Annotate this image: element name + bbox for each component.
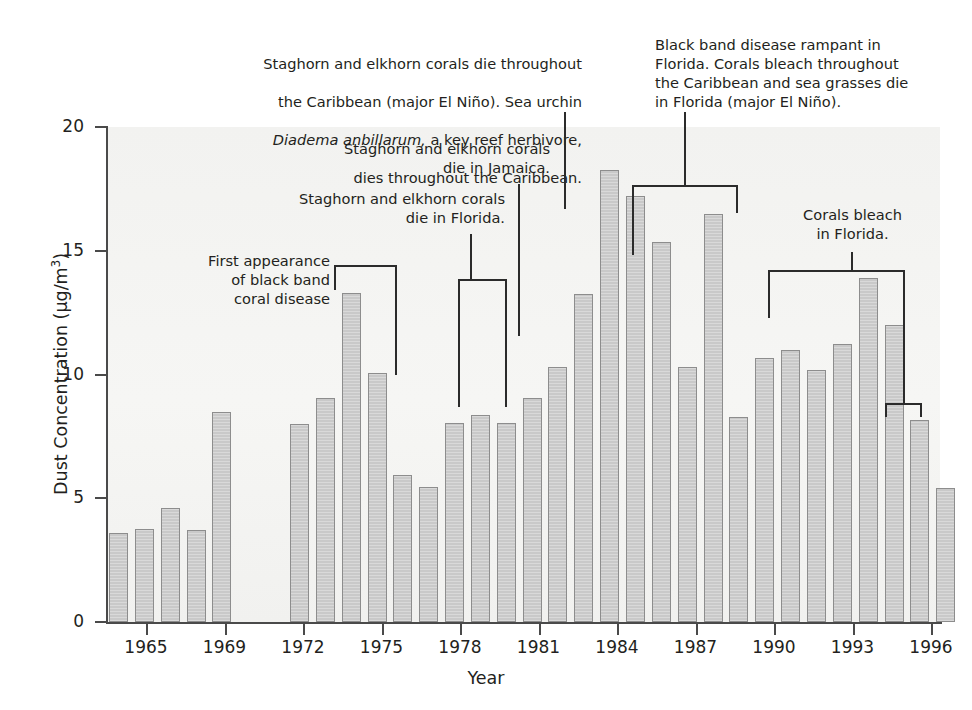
x-axis-tick — [539, 624, 541, 635]
leader-line-caribbean — [564, 112, 566, 209]
x-axis-tick-label: 1965 — [116, 638, 176, 657]
bar — [497, 423, 516, 622]
x-axis-tick-label: 1981 — [509, 638, 569, 657]
bar — [523, 398, 542, 622]
x-axis-line — [106, 622, 942, 624]
leader-line-florida-stem — [470, 234, 472, 279]
leader-line-bleach-left-drop — [768, 270, 770, 318]
annotation-corals-bleach-florida: Corals bleach in Florida. — [765, 206, 940, 244]
bar — [445, 423, 464, 622]
y-axis-tick-label: 10 — [0, 366, 84, 383]
x-axis-tick — [460, 624, 462, 635]
leader-line-bleach-bracket — [768, 270, 904, 272]
leader-line-bleach-stem — [851, 252, 853, 270]
bar — [600, 170, 619, 622]
bar — [833, 344, 852, 622]
y-axis-tick — [95, 250, 106, 252]
y-axis-tick-label: 20 — [0, 118, 84, 135]
x-axis-tick — [931, 624, 933, 635]
annotation-line: Staghorn and elkhorn corals die througho… — [232, 55, 582, 74]
y-axis-tick — [95, 126, 106, 128]
y-axis-title-text: Dust Concentration (µg/m3) — [51, 252, 71, 494]
leader-line-blackband-stem — [684, 112, 686, 185]
bar — [652, 242, 671, 622]
annotation-staghorn-elkhorn-florida: Staghorn and elkhorn corals die in Flori… — [265, 190, 505, 228]
y-axis-tick-label: 5 — [0, 489, 84, 506]
annotation-first-appearance-black-band: First appearance of black band coral dis… — [155, 252, 330, 309]
bar — [290, 424, 309, 622]
leader-line-bleach-right-cap — [885, 403, 921, 405]
x-axis-tick — [774, 624, 776, 635]
y-axis-line — [106, 126, 108, 624]
annotation-staghorn-elkhorn-jamaica: Staghorn and elkhorn corals die in Jamai… — [310, 140, 550, 178]
x-axis-tick-label: 1978 — [430, 638, 490, 657]
x-axis-tick-label: 1975 — [352, 638, 412, 657]
annotation-line: the Caribbean (major El Niño). Sea urchi… — [232, 93, 582, 112]
leader-line-florida-right-drop — [505, 279, 507, 407]
bar — [548, 367, 567, 622]
leader-line-firstapp-left-drop — [334, 265, 336, 290]
leader-line-blackband-bracket — [632, 185, 737, 187]
x-axis-tick-label: 1972 — [273, 638, 333, 657]
bar — [781, 350, 800, 622]
bar — [574, 294, 593, 622]
leader-line-blackband-right-drop — [736, 185, 738, 213]
leader-line-firstapp-right-drop — [395, 265, 397, 375]
x-axis-tick — [146, 624, 148, 635]
bar — [419, 487, 438, 622]
x-axis-title: Year — [0, 668, 972, 688]
bar — [161, 508, 180, 622]
x-axis-tick-label: 1996 — [901, 638, 961, 657]
x-axis-tick — [853, 624, 855, 635]
leader-line-bleach-right-drop — [903, 270, 905, 403]
bar — [910, 420, 929, 622]
x-axis-tick-label: 1993 — [823, 638, 883, 657]
bar — [187, 530, 206, 622]
x-axis-tick — [225, 624, 227, 635]
bar — [936, 488, 955, 622]
x-axis-tick — [617, 624, 619, 635]
x-axis-tick-label: 1984 — [587, 638, 647, 657]
bar — [755, 358, 774, 622]
x-axis-tick — [382, 624, 384, 635]
bar — [316, 398, 335, 622]
bar — [859, 278, 878, 622]
bar — [807, 370, 826, 622]
bar — [678, 367, 697, 622]
y-axis-tick — [95, 497, 106, 499]
x-axis-tick-label: 1990 — [744, 638, 804, 657]
y-axis-tick-label: 15 — [0, 242, 84, 259]
chart-figure: 05101520 Dust Concentration (µg/m3) 1965… — [0, 0, 972, 710]
leader-line-firstapp-bracket — [334, 265, 396, 267]
bar — [368, 373, 387, 622]
leader-line-bleach-cap-right — [920, 403, 922, 417]
bar — [393, 475, 412, 622]
bar — [626, 196, 645, 622]
bar — [212, 412, 231, 622]
x-axis-tick-label: 1969 — [195, 638, 255, 657]
y-axis-title: Dust Concentration (µg/m3) — [49, 223, 71, 523]
leader-line-florida-left-drop — [458, 279, 460, 407]
bar — [729, 417, 748, 622]
annotation-staghorn-elkhorn-caribbean: Staghorn and elkhorn corals die througho… — [232, 36, 582, 207]
bar — [135, 529, 154, 622]
leader-line-bleach-cap-left — [885, 403, 887, 417]
leader-line-blackband-left-drop — [632, 185, 634, 255]
bar — [704, 214, 723, 622]
bar — [342, 293, 361, 622]
y-axis-tick — [95, 621, 106, 623]
x-axis-tick — [303, 624, 305, 635]
annotation-black-band-rampant-florida: Black band disease rampant in Florida. C… — [655, 36, 935, 112]
bar — [109, 533, 128, 622]
x-axis-tick-label: 1987 — [666, 638, 726, 657]
y-axis-tick-label: 0 — [0, 613, 84, 630]
bar — [885, 325, 904, 622]
leader-line-florida-bracket — [458, 279, 506, 281]
y-axis-tick — [95, 374, 106, 376]
bar — [471, 415, 490, 622]
x-axis-tick — [696, 624, 698, 635]
leader-line-jamaica — [518, 184, 520, 336]
